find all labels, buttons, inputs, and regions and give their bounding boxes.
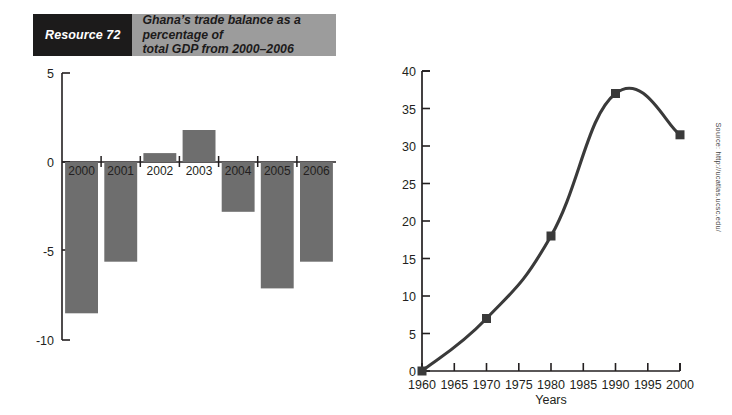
aid-per-capita-line-chart: 0510152025303540 19601965197019751980198… xyxy=(366,0,732,415)
line-x-tick-label: 1960 xyxy=(408,378,436,392)
line-y-tick-label: 40 xyxy=(402,65,416,79)
bar xyxy=(183,130,216,162)
resource-72-panel: Resource 72 Ghana’s trade balance as a p… xyxy=(0,0,366,415)
line-marker xyxy=(611,89,620,98)
line-chart-x-ticks xyxy=(422,363,680,371)
line-chart-x-axis-title: Years xyxy=(535,393,567,407)
bar-chart-svg: 50-5-10 2000200120022003200420052006 xyxy=(0,0,366,415)
line-x-tick-label: 1980 xyxy=(537,378,565,392)
bar-y-tick-label: -10 xyxy=(36,334,54,348)
line-y-tick-label: 30 xyxy=(402,140,416,154)
line-marker xyxy=(482,314,491,323)
line-y-tick-label: 5 xyxy=(409,328,416,342)
line-chart-y-ticks xyxy=(422,71,430,371)
line-y-tick-label: 10 xyxy=(402,290,416,304)
bar-category-label: 2001 xyxy=(107,164,134,178)
bar-category-label: 2004 xyxy=(225,164,252,178)
bar-y-tick-label: 0 xyxy=(47,156,54,170)
bar-category-label: 2003 xyxy=(186,164,213,178)
line-marker xyxy=(547,232,556,241)
bar-y-tick-label: -5 xyxy=(43,245,54,259)
bar-chart-y-tick-labels: 50-5-10 xyxy=(36,67,54,348)
line-chart-y-tick-labels: 0510152025303540 xyxy=(402,65,416,379)
line-y-tick-label: 20 xyxy=(402,215,416,229)
line-x-tick-label: 1995 xyxy=(634,378,662,392)
bar-category-label: 2002 xyxy=(147,164,174,178)
line-y-tick-label: 35 xyxy=(402,103,416,117)
line-chart-series-path xyxy=(422,88,680,371)
line-marker xyxy=(676,130,685,139)
bar xyxy=(261,162,294,288)
line-y-tick-label: 15 xyxy=(402,253,416,267)
line-x-tick-label: 1985 xyxy=(569,378,597,392)
line-x-tick-label: 1965 xyxy=(440,378,468,392)
line-x-tick-label: 1990 xyxy=(602,378,630,392)
bar-category-label: 2000 xyxy=(68,164,95,178)
bar-chart-bars xyxy=(65,130,333,313)
bar xyxy=(143,153,176,162)
line-chart-markers xyxy=(418,89,685,376)
bar-category-label: 2006 xyxy=(303,164,330,178)
bar-category-label: 2005 xyxy=(264,164,291,178)
line-chart-axes xyxy=(422,71,680,371)
source-note: Source: http://ucatlas.ucsc.edu/ xyxy=(714,122,723,232)
line-x-tick-label: 1970 xyxy=(473,378,501,392)
line-x-tick-label: 1975 xyxy=(505,378,533,392)
line-marker xyxy=(418,367,427,376)
bar xyxy=(65,162,98,313)
line-chart-x-tick-labels: 196019651970197519801985199019952000 xyxy=(408,378,694,392)
line-x-tick-label: 2000 xyxy=(666,378,694,392)
trade-balance-bar-chart: 50-5-10 2000200120022003200420052006 xyxy=(0,0,366,415)
line-y-tick-label: 25 xyxy=(402,178,416,192)
resource-73-panel: Resource 73 Aid per capita in Ghana (cur… xyxy=(366,0,732,415)
line-chart-svg: 0510152025303540 19601965197019751980198… xyxy=(366,0,732,415)
bar-y-tick-label: 5 xyxy=(47,67,54,81)
line-y-tick-label: 0 xyxy=(409,365,416,379)
